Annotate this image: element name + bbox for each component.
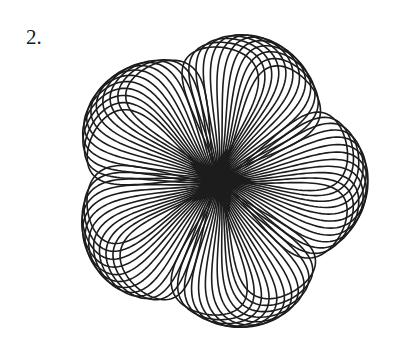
petal-group	[82, 35, 368, 328]
spirograph-figure	[0, 0, 403, 356]
